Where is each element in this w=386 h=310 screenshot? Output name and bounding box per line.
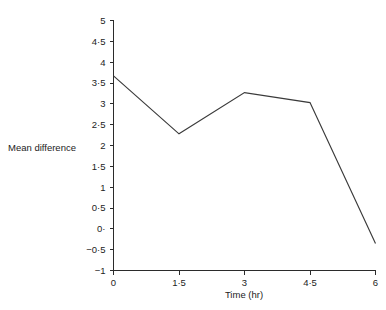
y-tick-label: 1 [100,182,105,193]
y-tick-label: 0· [97,223,105,234]
y-axis-tick-group: −1−0·50·0·511·522·533·544·55 [86,15,113,276]
y-tick-label: 1·5 [92,161,106,172]
x-tick-label: 4·5 [303,277,317,288]
y-tick-label: 0·5 [92,202,106,213]
y-tick-label: −1 [95,265,106,276]
y-tick-label: 5 [100,15,105,26]
y-tick-label: 3·5 [92,77,106,88]
x-tick-label: 3 [242,277,247,288]
line-chart: −1−0·50·0·511·522·533·544·55 01·534·56 M… [0,0,386,310]
y-tick-label: 2 [100,140,105,151]
x-axis-tick-group: 01·534·56 [111,271,378,288]
x-tick-label: 0 [111,277,116,288]
y-tick-label: 2·5 [92,119,106,130]
y-axis-title: Mean difference [8,142,76,153]
y-tick-label: 4 [100,57,105,68]
x-tick-label: 6 [373,277,378,288]
x-tick-label: 1·5 [172,277,186,288]
chart-figure: −1−0·50·0·511·522·533·544·55 01·534·56 M… [0,0,386,310]
y-tick-label: 4·5 [92,36,106,47]
y-tick-label: −0·5 [86,244,105,255]
y-tick-label: 3 [100,98,105,109]
data-series-line [114,76,376,244]
x-axis-title: Time (hr) [225,289,263,300]
